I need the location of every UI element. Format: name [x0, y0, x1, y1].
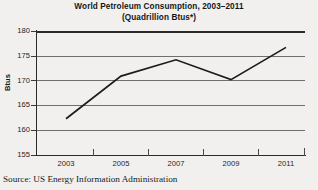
series-layer — [0, 0, 318, 190]
chart-figure: World Petroleum Consumption, 2003–2011 (… — [0, 0, 318, 190]
line-series-petroleum-consumption — [66, 47, 286, 118]
source-caption: Source: US Energy Information Administra… — [3, 174, 177, 185]
